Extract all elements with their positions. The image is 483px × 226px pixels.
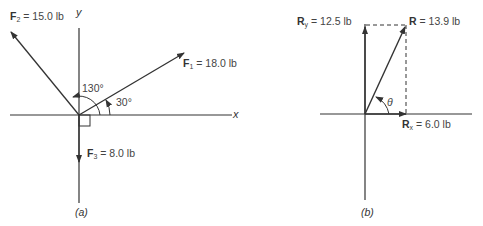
rx-label: Rx = 6.0 lb (402, 119, 451, 131)
f2-label: F2 = 15.0 lb (10, 11, 64, 23)
right-angle-mark (79, 115, 90, 126)
angle-130-label: 130° (82, 83, 104, 94)
angle-30-label: 30° (116, 97, 132, 108)
caption-b: (b) (361, 207, 374, 218)
f2-vector (11, 32, 79, 115)
y-axis-label-a: y (76, 7, 82, 18)
panel-b-diagram (320, 24, 472, 200)
theta-label: θ (387, 97, 393, 108)
caption-a: (a) (75, 207, 88, 218)
f1-label: F1 = 18.0 lb (183, 58, 237, 70)
vector-diagram (0, 0, 483, 226)
ry-label: Ry = 12.5 lb (297, 16, 352, 28)
r-vector (365, 27, 405, 114)
panel-a-diagram (10, 28, 232, 203)
f3-label: F3 = 8.0 lb (87, 148, 135, 160)
angle-30-arc (106, 100, 110, 115)
r-label: R = 13.9 lb (409, 16, 460, 27)
x-axis-label-a: x (233, 109, 239, 120)
